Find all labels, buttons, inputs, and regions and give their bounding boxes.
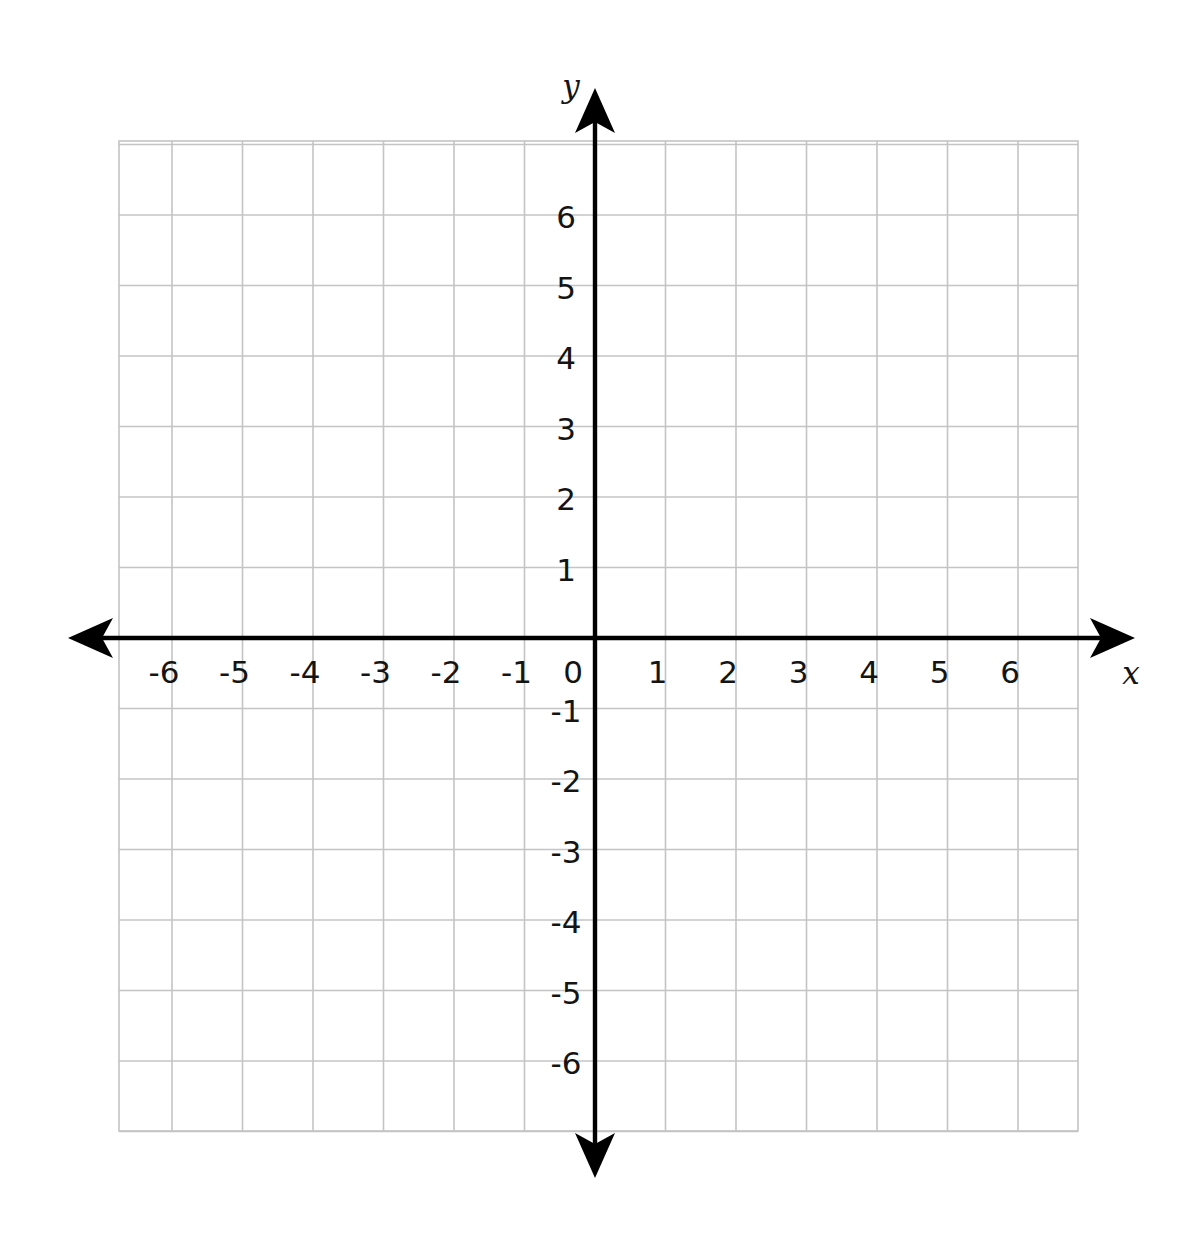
x-tick-label: -3	[360, 657, 391, 688]
y-tick-label: -2	[551, 766, 582, 797]
coordinate-grid-svg	[0, 0, 1197, 1241]
coordinate-plane-figure: -6-5-4-3-2-1123456654321-1-2-3-4-5-60 y …	[0, 0, 1197, 1241]
y-tick-label: -5	[551, 977, 582, 1008]
x-tick-label: -4	[290, 657, 321, 688]
x-tick-label: 3	[789, 657, 809, 688]
x-tick-label: -5	[219, 657, 250, 688]
x-tick-label: -1	[501, 657, 532, 688]
y-tick-label: 5	[556, 272, 576, 303]
x-tick-label: 5	[930, 657, 950, 688]
x-tick-label: 1	[648, 657, 668, 688]
origin-tick-label: 0	[563, 657, 583, 688]
x-tick-label: -6	[149, 657, 180, 688]
y-tick-label: -3	[551, 836, 582, 867]
x-tick-label: 2	[718, 657, 738, 688]
y-tick-label: -4	[551, 907, 582, 938]
y-tick-label: -1	[551, 695, 582, 726]
x-tick-label: 4	[859, 657, 879, 688]
y-tick-label: -6	[551, 1048, 582, 1079]
x-tick-label: -2	[431, 657, 462, 688]
x-tick-label: 6	[1000, 657, 1020, 688]
x-axis-label: x	[1122, 658, 1139, 689]
y-tick-label: 4	[556, 343, 576, 374]
y-tick-label: 2	[556, 484, 576, 515]
y-tick-label: 1	[556, 554, 576, 585]
y-tick-label: 3	[556, 413, 576, 444]
y-axis-label: y	[562, 71, 580, 102]
y-tick-label: 6	[556, 202, 576, 233]
